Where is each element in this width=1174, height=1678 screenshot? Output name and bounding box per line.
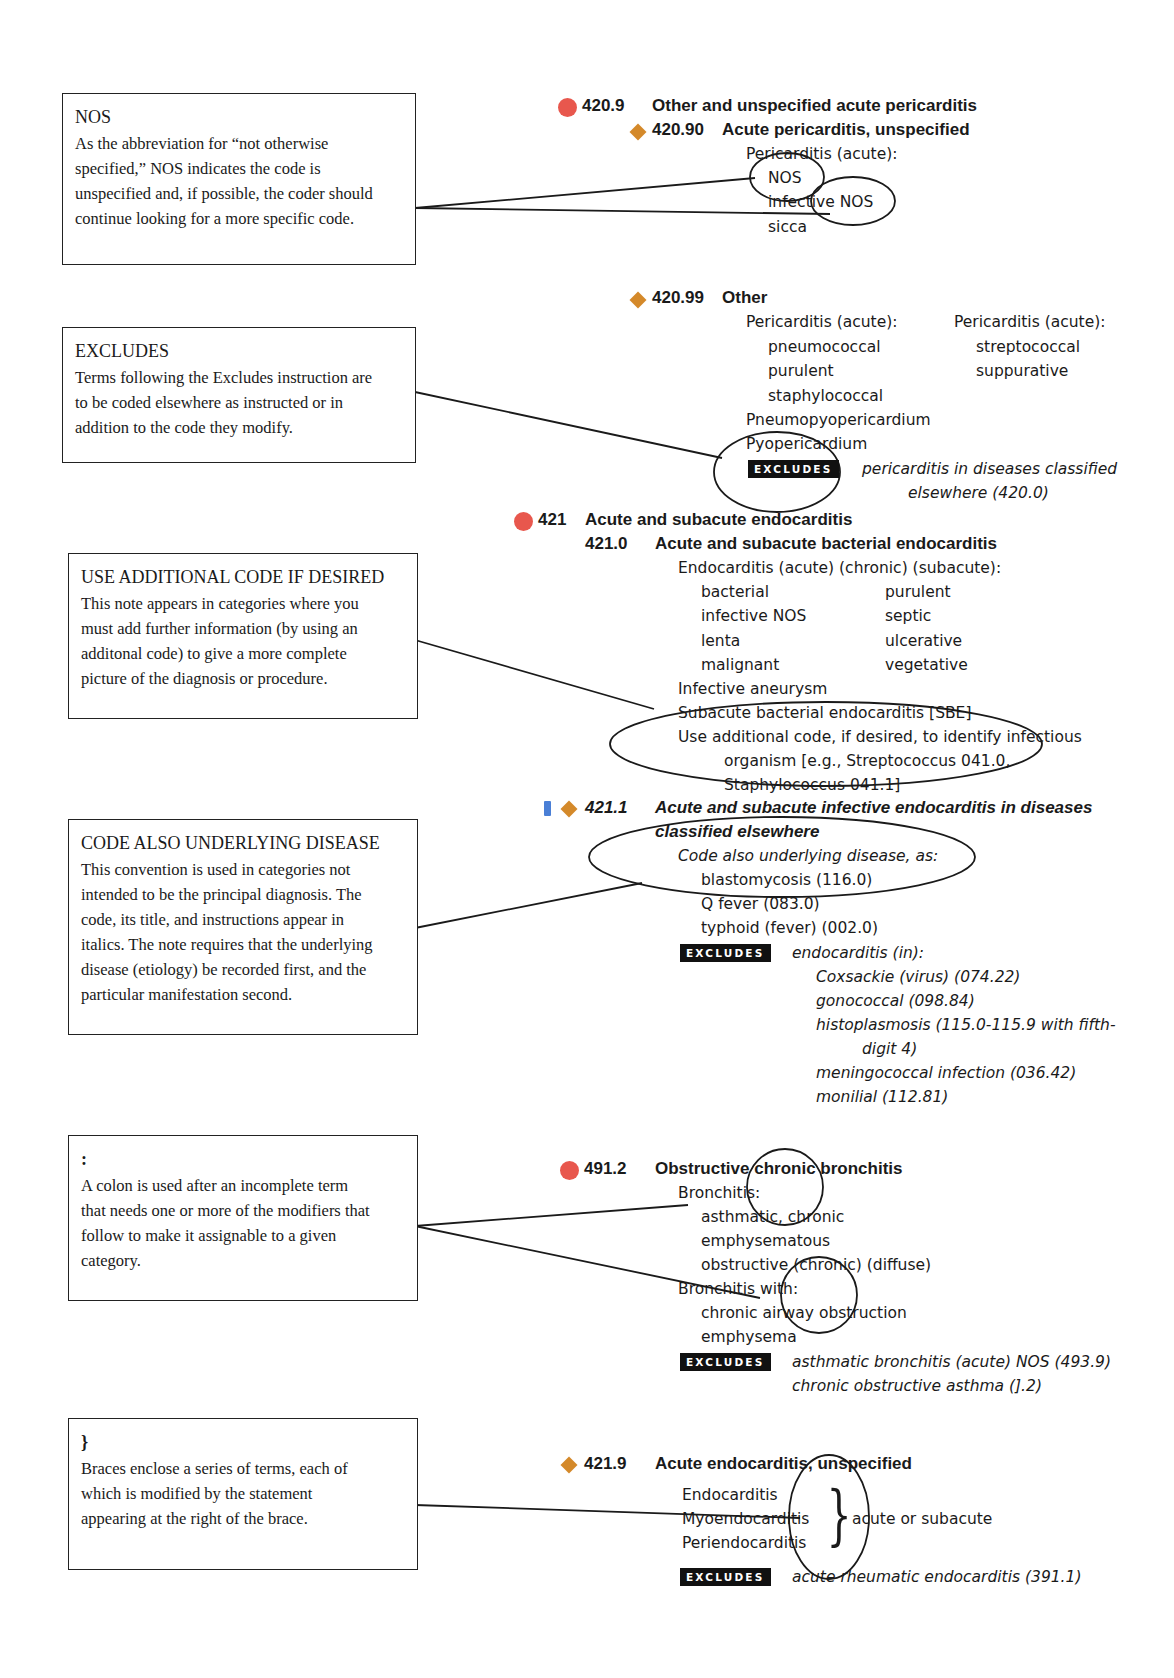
note-line: to be coded elsewhere as instructed or i… [75, 390, 403, 415]
title-420-90: Acute pericarditis, unspecified [722, 119, 970, 141]
note-line: category. [81, 1248, 405, 1273]
excluded-term: acute rheumatic endocarditis (391.1) [792, 1566, 1081, 1588]
note-line: This convention is used in categories no… [81, 857, 405, 882]
orange-diamond-icon [630, 292, 647, 309]
term: asthmatic, chronic [701, 1206, 844, 1228]
term: Periendocarditis [682, 1532, 806, 1554]
orange-diamond-icon [561, 801, 578, 818]
term: obstructive (chronic) (diffuse) [701, 1254, 931, 1276]
note-line: that needs one or more of the modifiers … [81, 1198, 405, 1223]
note-line: must add further information (by using a… [81, 616, 405, 641]
code-421-0: 421.0 [585, 533, 628, 555]
note-line: This note appears in categories where yo… [81, 591, 405, 616]
term: Bronchitis: [678, 1182, 760, 1204]
term: Pericarditis (acute): [746, 311, 897, 333]
term: Endocarditis (acute) (chronic) (subacute… [678, 557, 1001, 579]
note-line: appearing at the right of the brace. [81, 1506, 405, 1531]
note-line: intended to be the principal diagnosis. … [81, 882, 405, 907]
title-421-1: Acute and subacute infective endocarditi… [655, 797, 1092, 819]
orange-diamond-icon [561, 1457, 578, 1474]
term: lenta [701, 630, 740, 652]
note-line: picture of the diagnosis or procedure. [81, 666, 405, 691]
title-491-2: Obstructive chronic bronchitis [655, 1158, 903, 1180]
term: Pyopericardium [746, 433, 867, 455]
term: Endocarditis [682, 1484, 778, 1506]
term: suppurative [976, 360, 1068, 382]
excluded-term: asthmatic bronchitis (acute) NOS (493.9) [792, 1351, 1111, 1373]
blue-marker-icon [544, 801, 551, 816]
title-421-0: Acute and subacute bacterial endocarditi… [655, 533, 997, 555]
note-title: EXCLUDES [75, 338, 403, 364]
orange-diamond-icon [630, 124, 647, 141]
term: vegetative [885, 654, 968, 676]
excluded-term: meningococcal infection (036.42) [816, 1062, 1076, 1084]
red-dot-icon [560, 1161, 579, 1180]
term: infective NOS [768, 191, 873, 213]
term: chronic airway obstruction [701, 1302, 907, 1324]
excluded-term: pericarditis in diseases classified [862, 458, 1117, 480]
note-line: Braces enclose a series of terms, each o… [81, 1456, 405, 1481]
term: Pericarditis (acute): [954, 311, 1105, 333]
use-additional-code-note: Use additional code, if desired, to iden… [678, 726, 1082, 748]
note-line: particular manifestation second. [81, 982, 405, 1007]
term: bacterial [701, 581, 769, 603]
note-line: italics. The note requires that the unde… [81, 932, 405, 957]
term: typhoid (fever) (002.0) [701, 917, 878, 939]
excluded-term: monilial (112.81) [816, 1086, 948, 1108]
note-title: NOS [75, 104, 403, 130]
note-line: follow to make it assignable to a given [81, 1223, 405, 1248]
term: blastomycosis (116.0) [701, 869, 872, 891]
term: Subacute bacterial endocarditis [SBE] [678, 702, 971, 724]
note-title: CODE ALSO UNDERLYING DISEASE [81, 830, 405, 856]
code-491-2: 491.2 [584, 1158, 627, 1180]
term: Pneumopyopericardium [746, 409, 931, 431]
note-box-nos: NOS As the abbreviation for “not otherwi… [62, 93, 416, 265]
note-line: addition to the code they modify. [75, 415, 403, 440]
term: Pericarditis (acute): [746, 143, 897, 165]
code-421: 421 [538, 509, 566, 531]
term: pneumococcal [768, 336, 880, 358]
term: streptococcal [976, 336, 1080, 358]
code-421-1: 421.1 [585, 797, 628, 819]
excluded-term: digit 4) [862, 1038, 917, 1060]
note-line: Terms following the Excludes instruction… [75, 365, 403, 390]
code-421-9: 421.9 [584, 1453, 627, 1475]
note-line: A colon is used after an incomplete term [81, 1173, 405, 1198]
title-420-9: Other and unspecified acute pericarditis [652, 95, 977, 117]
excluded-term: gonococcal (098.84) [816, 990, 975, 1012]
term: sicca [768, 216, 807, 238]
excluded-term: endocarditis (in): [792, 942, 924, 964]
code-also-note: Code also underlying disease, as: [678, 845, 938, 867]
note-line: which is modified by the statement [81, 1481, 405, 1506]
note-line: code, its title, and instructions appear… [81, 907, 405, 932]
title-421-9: Acute endocarditis, unspecified [655, 1453, 912, 1475]
note-line: disease (etiology) be recorded first, an… [81, 957, 405, 982]
term: staphylococcal [768, 385, 883, 407]
coding-conventions-page: NOS As the abbreviation for “not otherwi… [0, 0, 1174, 1678]
code-420-99: 420.99 [652, 287, 704, 309]
note-box-colon: : A colon is used after an incomplete te… [68, 1135, 418, 1301]
excluded-term: chronic obstructive asthma (].2) [792, 1375, 1042, 1397]
use-additional-code-note: Staphylococcus 041.1] [724, 774, 900, 796]
term: Infective aneurysm [678, 678, 827, 700]
note-line: specified,” NOS indicates the code is [75, 156, 403, 181]
note-line: unspecified and, if possible, the coder … [75, 181, 403, 206]
excludes-badge: EXCLUDES [680, 1353, 771, 1371]
note-title: : [81, 1146, 405, 1172]
term: septic [885, 605, 931, 627]
excludes-badge: EXCLUDES [748, 460, 839, 478]
code-420-9: 420.9 [582, 95, 625, 117]
note-line: additonal code) to give a more complete [81, 641, 405, 666]
title-421: Acute and subacute endocarditis [585, 509, 852, 531]
note-line: As the abbreviation for “not otherwise [75, 131, 403, 156]
excludes-badge: EXCLUDES [680, 1568, 771, 1586]
title-421-1-cont: classified elsewhere [655, 821, 819, 843]
note-box-code-also-underlying: CODE ALSO UNDERLYING DISEASE This conven… [68, 819, 418, 1035]
excluded-term: elsewhere (420.0) [908, 482, 1049, 504]
note-box-brace: } Braces enclose a series of terms, each… [68, 1418, 418, 1570]
note-title: } [81, 1429, 405, 1455]
note-box-use-additional-code: USE ADDITIONAL CODE IF DESIRED This note… [68, 553, 418, 719]
brace-modifier: acute or subacute [852, 1508, 992, 1530]
note-title: USE ADDITIONAL CODE IF DESIRED [81, 564, 405, 590]
term: malignant [701, 654, 779, 676]
